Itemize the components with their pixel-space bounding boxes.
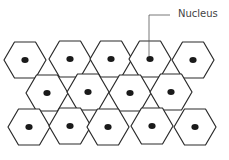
nucleus-label: Nucleus bbox=[178, 8, 218, 19]
nucleus-dot bbox=[148, 123, 155, 129]
nucleus-dot bbox=[189, 57, 196, 63]
nucleus-dot bbox=[146, 56, 153, 62]
nucleus-dot bbox=[191, 124, 198, 130]
cells-group bbox=[4, 41, 216, 145]
nucleus-dot bbox=[66, 56, 73, 62]
nucleus-dot bbox=[43, 90, 50, 96]
nucleus-dot bbox=[167, 89, 174, 95]
nucleus-dot bbox=[25, 124, 32, 130]
nucleus-dot bbox=[104, 124, 111, 130]
nucleus-dot bbox=[21, 57, 28, 63]
nucleus-dot bbox=[126, 90, 133, 96]
nucleus-dot bbox=[66, 123, 73, 129]
cell-diagram bbox=[0, 0, 229, 160]
nucleus-dot bbox=[84, 89, 91, 95]
nucleus-dot bbox=[107, 56, 114, 62]
